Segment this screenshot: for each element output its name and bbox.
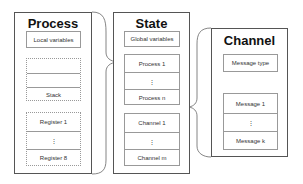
register-row: Register 1 [27,113,80,131]
message-row: Message k [224,131,277,150]
channel-row: Channel m [125,149,179,166]
message-row: ⋮ [224,113,277,131]
process-row: Process 1 [125,55,179,72]
process-title: Process [15,16,91,31]
channel-box: Channel Message type Message 1 ⋮ Message… [211,28,288,157]
channel-title: Channel [212,33,287,48]
messages-group: Message 1 ⋮ Message k [223,93,278,150]
stack-row: Stack [27,87,80,101]
registers-group: Register 1 ⋮ Register 8 [26,112,81,166]
channel-row: Channel 1 [125,114,179,132]
channel-to-state-brace [189,28,211,157]
register-row: Register 8 [27,149,80,166]
message-type-cell: Message type [223,54,278,72]
process-box: Process Local variables Stack Register 1… [14,12,92,174]
stack-group: Stack [26,58,81,101]
process-row: Process n [125,89,179,105]
state-box: State Global variables Process 1 ⋮ Proce… [113,12,190,174]
local-variables-cell: Local variables [26,31,81,48]
channel-row: ⋮ [125,132,179,149]
stack-row [27,73,80,87]
channels-group: Channel 1 ⋮ Channel m [124,113,180,166]
global-variables-cell: Global variables [124,31,180,47]
stack-row [27,59,80,73]
process-row: ⋮ [125,72,179,89]
register-row: ⋮ [27,131,80,149]
state-title: State [114,16,189,31]
processes-group: Process 1 ⋮ Process n [124,54,180,105]
message-row: Message 1 [224,94,277,113]
